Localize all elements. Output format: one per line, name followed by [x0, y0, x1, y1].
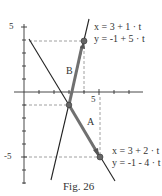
vector-a-equation-y: y = -1 - 4 · t [112, 157, 160, 168]
vector-a-label: A [87, 116, 94, 127]
vector-a-equation-x: x = 3 + 2 · t [112, 145, 159, 156]
x-tick-label-5: 5 [91, 94, 96, 105]
start-point [66, 102, 72, 108]
y-tick-label-neg5: -5 [4, 151, 12, 162]
vector-b-equation-x: x = 3 + 1 · t [94, 21, 141, 32]
vector-b-equation-y: y = -1 + 5 · t [94, 33, 145, 44]
end-point-a [97, 154, 103, 160]
y-tick-label-5: 5 [9, 21, 14, 32]
vector-a [69, 105, 98, 154]
vector-b-label: B [66, 65, 73, 76]
end-point-b [81, 38, 87, 44]
figure-caption: Fig. 26 [63, 181, 94, 192]
